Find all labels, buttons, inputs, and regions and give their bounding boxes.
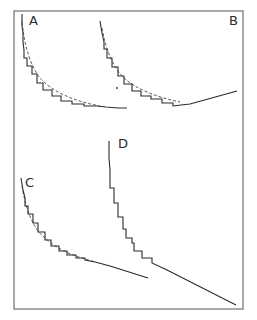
panel-b: B — [100, 13, 238, 106]
panel-a-step-curve — [22, 14, 127, 108]
panel-c: C — [21, 175, 148, 278]
panel-a: A — [22, 13, 127, 108]
panel-d-step-curve — [109, 141, 236, 305]
panel-d-label: D — [118, 136, 128, 151]
panel-b-step-curve — [100, 21, 237, 106]
panel-a-fit-curve — [22, 22, 100, 106]
speck — [116, 87, 118, 89]
panel-c-step-curve — [21, 178, 148, 278]
panel-c-label: C — [25, 175, 34, 190]
panel-d: D — [109, 136, 236, 305]
figure-frame — [14, 11, 243, 309]
panel-b-label: B — [229, 13, 238, 28]
panel-a-label: A — [29, 13, 38, 28]
figure-canvas: A B C D — [0, 0, 257, 320]
